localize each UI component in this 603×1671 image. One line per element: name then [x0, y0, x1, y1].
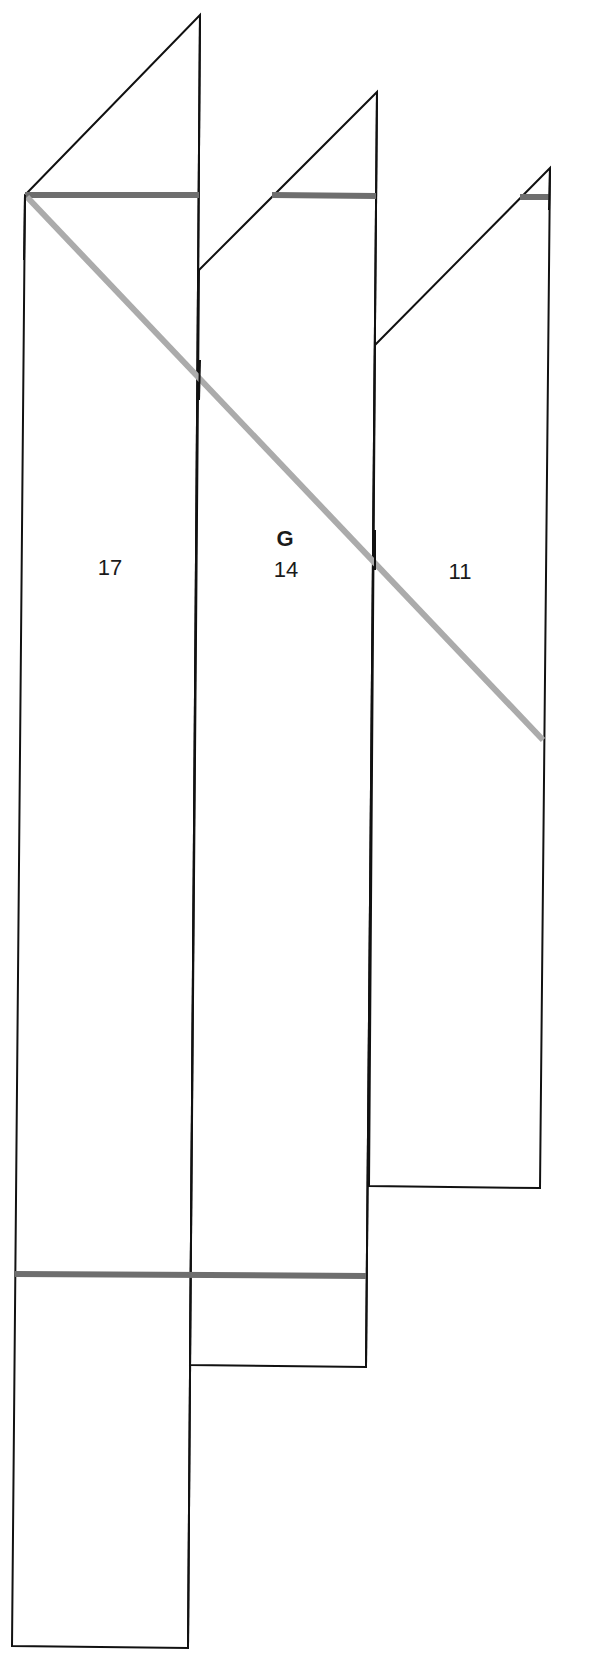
group-label: G [276, 526, 293, 551]
column-11 [369, 168, 550, 1188]
columns-diagram: G 17 14 11 [0, 0, 603, 1671]
top-bar-column-14 [272, 195, 376, 196]
column-17-right-edge-overlay [199, 360, 200, 400]
column-17-label: 17 [98, 555, 122, 580]
column-14 [190, 92, 377, 1367]
column-17-outline [12, 15, 200, 1648]
column-11-label: 11 [449, 559, 472, 584]
column-17-left-edge-top [24, 195, 25, 260]
column-14-outline [190, 92, 377, 1367]
column-11-right-edge-overlay [549, 168, 550, 210]
column-11-outline [369, 168, 550, 1188]
bottom-bar [15, 1274, 366, 1276]
column-14-label: 14 [274, 557, 298, 582]
column-17 [12, 15, 200, 1648]
